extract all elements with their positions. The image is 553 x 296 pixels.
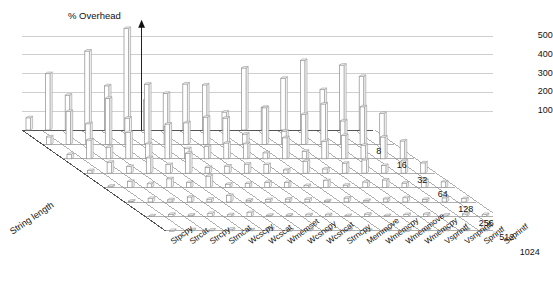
depth-axis-tick-8: 8 <box>376 146 381 156</box>
depth-axis-tick-16: 16 <box>397 160 407 170</box>
y-axis-tick-400: 400 <box>538 49 553 59</box>
depth-axis-tick-64: 64 <box>438 189 448 199</box>
y-axis-tick-500: 500 <box>538 30 553 40</box>
y-axis-tick-300: 300 <box>538 68 553 78</box>
y-axis-title: % Overhead <box>68 10 121 21</box>
y-axis-tick-200: 200 <box>538 86 553 96</box>
depth-axis-tick-128: 128 <box>458 204 473 214</box>
y-axis-tick-100: 100 <box>538 105 553 115</box>
depth-axis-tick-32: 32 <box>417 175 427 185</box>
depth-axis-tick-1024: 1024 <box>520 247 540 257</box>
